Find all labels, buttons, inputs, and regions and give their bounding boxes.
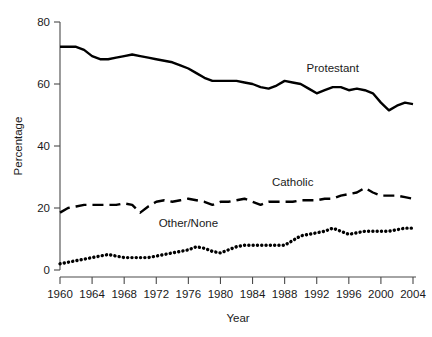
- x-tick-label-1960: 1960: [47, 288, 73, 300]
- y-tick-label-0: 0: [44, 264, 50, 276]
- y-axis-title: Percentage: [12, 117, 24, 176]
- x-tick-label-1988: 1988: [272, 288, 298, 300]
- religious-affiliation-line-chart: 020406080 196019641968197219761980198419…: [0, 0, 432, 337]
- x-axis-title: Year: [226, 312, 249, 324]
- series-line-protestant: [60, 47, 413, 111]
- y-axis-tick-labels: 020406080: [37, 16, 50, 276]
- y-axis-ticks: [54, 22, 60, 270]
- x-axis-tick-labels: 1960196419681972197619801984198819921996…: [47, 288, 426, 300]
- x-tick-label-1996: 1996: [336, 288, 362, 300]
- x-tick-label-2004: 2004: [400, 288, 426, 300]
- x-tick-label-1972: 1972: [143, 288, 169, 300]
- x-tick-label-2000: 2000: [368, 288, 394, 300]
- series-line-catholic: [60, 188, 413, 213]
- y-tick-label-20: 20: [37, 202, 50, 214]
- series-line-other-none: [60, 228, 413, 264]
- x-tick-label-1992: 1992: [304, 288, 330, 300]
- chart-figure: 020406080 196019641968197219761980198419…: [0, 0, 432, 337]
- series-label-catholic: Catholic: [272, 176, 314, 188]
- x-axis-ticks: [60, 277, 413, 284]
- x-tick-label-1964: 1964: [79, 288, 105, 300]
- series-paths-group: [60, 47, 413, 264]
- series-label-protestant: Protestant: [307, 62, 360, 74]
- series-label-other-none: Other/None: [159, 217, 218, 229]
- x-tick-label-1968: 1968: [111, 288, 137, 300]
- x-tick-label-1980: 1980: [208, 288, 234, 300]
- y-tick-label-40: 40: [37, 140, 50, 152]
- x-tick-label-1976: 1976: [176, 288, 202, 300]
- x-tick-label-1984: 1984: [240, 288, 266, 300]
- y-tick-label-80: 80: [37, 16, 50, 28]
- y-tick-label-60: 60: [37, 78, 50, 90]
